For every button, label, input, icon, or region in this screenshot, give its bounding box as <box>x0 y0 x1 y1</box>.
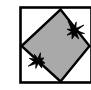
figure-container <box>0 0 91 90</box>
diamond-with-impact-bursts-figure <box>0 0 91 90</box>
